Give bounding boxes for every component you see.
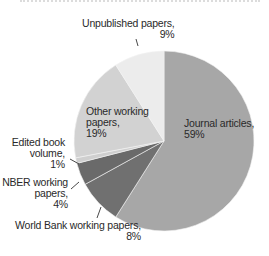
label-other-working: Other working papers, 19% <box>86 106 149 139</box>
label-percent: 59% <box>184 129 254 140</box>
label-percent: 1% <box>12 159 65 170</box>
label-percent: 19% <box>86 128 149 139</box>
pie-slices <box>74 51 254 231</box>
label-world-bank: World Bank working papers, 8% <box>15 220 141 242</box>
label-percent: 4% <box>2 199 68 210</box>
label-journal-articles: Journal articles, 59% <box>184 118 254 140</box>
label-percent: 8% <box>15 231 141 242</box>
leader-worldbank <box>97 207 101 218</box>
leader-nber <box>71 182 79 189</box>
label-edited-book: Edited book volume, 1% <box>12 137 65 170</box>
leader-unpublished <box>136 39 138 46</box>
label-nber: NBER working papers, 4% <box>2 177 68 210</box>
label-unpublished: Unpublished papers, 9% <box>82 18 175 40</box>
label-text: World Bank working papers, <box>15 220 141 231</box>
label-percent: 9% <box>82 29 175 40</box>
